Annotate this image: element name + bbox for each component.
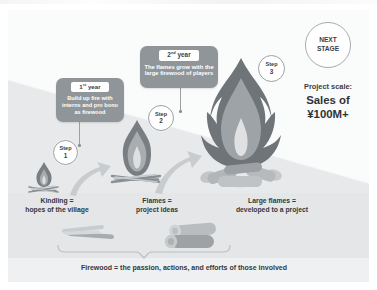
firewood-footer-caption: Firewood = the passion, actions, and eff… bbox=[14, 264, 354, 271]
top-edge-artifact bbox=[0, 0, 377, 4]
callout-1-leader-line bbox=[79, 122, 80, 144]
caption-large-flames-line-2: developed to a project bbox=[202, 205, 342, 214]
step-badge-3-word: Step bbox=[265, 62, 277, 68]
callout-year-2-label: 2nd year bbox=[159, 50, 199, 61]
callout-year-1-label: 1st year bbox=[71, 82, 109, 92]
callout-2-leader-line bbox=[180, 88, 181, 111]
caption-flames: Flames = project ideas bbox=[112, 196, 202, 214]
caption-large-flames-line-1: Large flames = bbox=[202, 196, 342, 205]
large-fire-logs bbox=[199, 162, 284, 187]
kindling-sticks-illustration bbox=[58, 222, 120, 244]
project-scale-value: Sales of ¥100M+ bbox=[288, 94, 368, 122]
next-stage-line-2: STAGE bbox=[317, 45, 339, 54]
caption-flames-line-2: project ideas bbox=[112, 205, 202, 214]
next-stage-badge[interactable]: NEXT STAGE bbox=[305, 22, 351, 68]
growth-arrow-2-icon bbox=[152, 148, 204, 196]
caption-kindling-line-1: Kindling = bbox=[2, 196, 112, 205]
callout-2-leader-dot bbox=[179, 110, 182, 113]
caption-kindling: Kindling = hopes of the village bbox=[2, 196, 112, 214]
project-scale-label: Project scale: bbox=[292, 82, 364, 91]
firewood-brace bbox=[56, 243, 232, 259]
step-badge-2[interactable]: Step 2 bbox=[148, 105, 174, 131]
step-badge-1[interactable]: Step 1 bbox=[53, 140, 78, 165]
callout-year-1[interactable]: 1st year Build up fire with interns and … bbox=[56, 78, 124, 122]
next-stage-line-1: NEXT bbox=[319, 36, 337, 45]
step-badge-2-number: 2 bbox=[159, 118, 163, 124]
step-badge-3-number: 3 bbox=[270, 69, 274, 75]
caption-flames-line-1: Flames = bbox=[112, 196, 202, 205]
callout-year-1-body: Build up fire with interns and pro bono … bbox=[56, 95, 124, 119]
step-badge-1-word: Step bbox=[59, 146, 71, 152]
caption-large-flames: Large flames = developed to a project bbox=[202, 196, 342, 214]
step-badge-1-number: 1 bbox=[64, 153, 68, 159]
growth-arrow-1-icon bbox=[66, 158, 114, 198]
step-badge-3[interactable]: Step 3 bbox=[258, 55, 285, 82]
callout-1-leader-dot bbox=[78, 144, 81, 147]
caption-kindling-line-2: hopes of the village bbox=[2, 205, 112, 214]
small-fire-illustration bbox=[24, 158, 64, 200]
callout-year-2-body: The flames grow with the large firewood … bbox=[140, 64, 218, 82]
callout-year-2[interactable]: 2nd year The flames grow with the large … bbox=[140, 46, 218, 88]
diagram-canvas: 1st year Build up fire with interns and … bbox=[0, 0, 377, 290]
